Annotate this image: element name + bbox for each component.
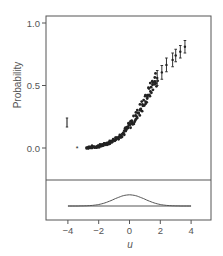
plot-frame	[46, 16, 211, 220]
scatter-points: *	[76, 72, 159, 152]
y-tick-label: 0.0	[27, 143, 40, 154]
y-tick-label: 0.5	[27, 80, 40, 91]
svg-text:*: *	[76, 145, 79, 152]
error-bars	[156, 41, 186, 86]
y-tick-label: 1.0	[27, 18, 40, 29]
y-axis-title: Probability	[12, 62, 23, 109]
x-tick-label: 0	[127, 225, 132, 236]
x-tick-label: 4	[188, 225, 193, 236]
x-axis-title: u	[127, 239, 133, 250]
error-bar-legend-icon	[66, 118, 68, 127]
x-tick-label: −2	[93, 225, 104, 236]
x-axis: −4−2024	[62, 220, 193, 236]
x-tick-label: 2	[158, 225, 163, 236]
x-tick-label: −4	[62, 225, 73, 236]
density-curve	[68, 195, 191, 206]
chart: 0.00.51.0 −4−2024 Probability u *	[0, 0, 223, 256]
y-axis: 0.00.51.0	[27, 18, 46, 154]
